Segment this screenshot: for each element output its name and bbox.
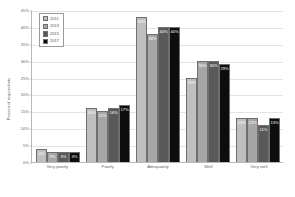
bar-value-label: 11% — [260, 128, 268, 132]
legend-label: 2011 — [50, 17, 59, 21]
x-tick-label: Well — [183, 165, 233, 169]
legend-swatch — [43, 31, 48, 36]
legend-label: 2015 — [50, 32, 59, 36]
legend-label: 2017 — [50, 39, 59, 43]
bar: 40% — [158, 27, 169, 162]
bar-group: 43%38%40%40% — [133, 11, 183, 162]
bar-value-label: 40% — [159, 30, 167, 34]
bar: 16% — [86, 108, 97, 162]
plot-area: 0%5%10%15%20%25%30%35%40%45% 4%3%3%3%16%… — [31, 11, 283, 163]
x-axis-labels: Very poorlyPoorlyAdequatelyWellVery well — [32, 165, 284, 169]
legend-swatch — [43, 16, 48, 21]
bar: 43% — [136, 17, 147, 162]
x-tick-label: Adequately — [133, 165, 183, 169]
x-tick-label: Very well — [234, 165, 284, 169]
bar: 3% — [47, 152, 58, 162]
bar-value-label: 16% — [87, 111, 95, 115]
y-axis-title: Percent of respondents — [7, 77, 11, 119]
bar: 29% — [219, 64, 230, 162]
legend-item[interactable]: 2015 — [43, 31, 59, 36]
bar-value-label: 25% — [187, 81, 195, 85]
y-tick-mark — [30, 11, 32, 12]
y-tick-label: 20% — [21, 93, 29, 97]
bar-value-label: 29% — [220, 67, 228, 71]
bar: 25% — [186, 78, 197, 162]
bar-value-label: 30% — [198, 64, 206, 68]
y-tick-mark — [30, 61, 32, 62]
legend-item[interactable]: 2011 — [43, 16, 59, 21]
bar: 13% — [247, 118, 258, 162]
bar-value-label: 16% — [109, 111, 117, 115]
legend-swatch — [43, 24, 48, 29]
bar: 16% — [108, 108, 119, 162]
bar: 38% — [147, 34, 158, 162]
y-tick-label: 30% — [21, 60, 29, 64]
bar-value-label: 3% — [61, 155, 67, 159]
legend-swatch — [43, 39, 48, 44]
y-tick-mark — [30, 112, 32, 113]
bar-value-label: 13% — [248, 121, 256, 125]
bars-layer: 4%3%3%3%16%15%16%17%43%38%40%40%25%30%30… — [33, 11, 283, 162]
bar: 40% — [169, 27, 180, 162]
legend-item[interactable]: 2013 — [43, 24, 59, 29]
y-tick-label: 10% — [21, 127, 29, 131]
y-tick-mark — [30, 78, 32, 79]
bar-value-label: 17% — [120, 108, 128, 112]
y-tick-mark — [30, 44, 32, 45]
y-tick-label: 5% — [23, 144, 29, 148]
y-tick-label: 40% — [21, 26, 29, 30]
x-tick-label: Very poorly — [32, 165, 82, 169]
bar-value-label: 3% — [50, 155, 56, 159]
bar: 11% — [258, 125, 269, 162]
y-tick-mark — [30, 146, 32, 147]
bar-group: 13%13%11%13% — [233, 11, 283, 162]
y-tick-label: 0% — [23, 161, 29, 165]
bar-chart: Percent of respondents 0%5%10%15%20%25%3… — [0, 0, 295, 197]
legend: 2011201320152017 — [39, 13, 64, 47]
bar-value-label: 13% — [270, 121, 278, 125]
bar-value-label: 3% — [72, 155, 78, 159]
bar: 15% — [97, 111, 108, 162]
bar: 30% — [197, 61, 208, 162]
legend-label: 2013 — [50, 24, 59, 28]
bar-group: 16%15%16%17% — [83, 11, 133, 162]
bar-value-label: 40% — [170, 30, 178, 34]
bar: 17% — [119, 105, 130, 162]
legend-item[interactable]: 2017 — [43, 39, 59, 44]
x-tick-label: Poorly — [82, 165, 132, 169]
y-tick-label: 15% — [21, 110, 29, 114]
bar: 13% — [236, 118, 247, 162]
bar-group: 25%30%30%29% — [183, 11, 233, 162]
y-tick-label: 45% — [21, 9, 29, 13]
y-tick-label: 25% — [21, 77, 29, 81]
y-tick-mark — [30, 129, 32, 130]
bar-value-label: 38% — [148, 37, 156, 41]
bar: 3% — [58, 152, 69, 162]
bar-value-label: 4% — [39, 152, 45, 156]
y-tick-mark — [30, 27, 32, 28]
bar: 13% — [269, 118, 280, 162]
bar-value-label: 30% — [209, 64, 217, 68]
bar: 4% — [36, 149, 47, 163]
bar-value-label: 43% — [137, 20, 145, 24]
bar-value-label: 13% — [237, 121, 245, 125]
bar: 3% — [69, 152, 80, 162]
y-tick-mark — [30, 163, 32, 164]
bar: 30% — [208, 61, 219, 162]
y-tick-mark — [30, 95, 32, 96]
y-tick-label: 35% — [21, 43, 29, 47]
bar-value-label: 15% — [98, 114, 106, 118]
